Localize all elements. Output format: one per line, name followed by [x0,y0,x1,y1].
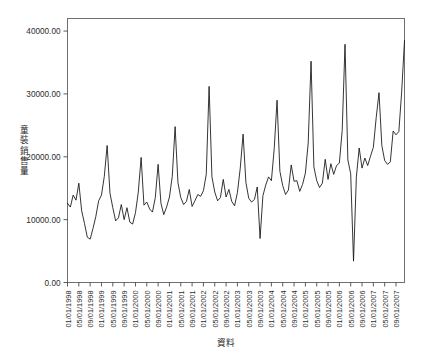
y-axis-title-char: 裝 [20,134,29,145]
chart-container: 0.0010000.0020000.0030000.0040000.00 01/… [0,0,428,358]
y-axis-title: 童裝銷售量 [20,124,29,177]
x-tick-label: 01/01/1998 [64,291,73,328]
x-tick-label: 05/01/2005 [313,291,322,328]
x-tick-label: 01/01/2006 [335,291,344,328]
x-tick-label: 05/01/2006 [347,291,356,328]
x-tick-label: 09/01/1999 [120,291,129,328]
x-tick-label: 09/01/2000 [154,291,163,328]
x-tick-label: 05/01/2003 [245,291,254,328]
x-tick-label: 09/01/2003 [256,291,265,328]
x-tick-label: 01/01/2001 [165,291,174,328]
x-tick-label: 09/01/2005 [324,291,333,328]
x-tick-label: 09/01/2006 [358,291,367,328]
x-tick-label: 05/01/2001 [177,291,186,328]
x-tick-label: 09/01/1998 [86,291,95,328]
x-tick-label: 01/01/2007 [369,291,378,328]
x-tick-label: 09/01/2004 [290,291,299,328]
x-tick-label: 05/01/2004 [279,291,288,328]
x-tick-label: 01/01/2004 [267,291,276,328]
x-tick-label: 09/01/2001 [188,291,197,328]
y-tick-label: 10000.00 [26,216,61,225]
x-tick-label: 09/01/2007 [392,291,401,328]
x-tick-label: 01/01/1999 [97,291,106,328]
x-tick-label: 01/01/2003 [233,291,242,328]
x-tick-label: 05/01/2000 [143,291,152,328]
y-axis-title-char: 童 [20,124,29,135]
y-tick-label: 0.00 [45,279,61,288]
y-axis-title-char: 銷 [20,145,29,156]
x-tick-label: 01/01/2005 [301,291,310,328]
y-tick-label: 20000.00 [26,153,61,162]
x-tick-label: 05/01/2007 [381,291,390,328]
x-tick-label: 09/01/2002 [222,291,231,328]
x-tick-label: 01/01/2000 [131,291,140,328]
y-axis-title-char: 量 [20,166,29,176]
x-tick-label: 05/01/1999 [109,291,118,328]
x-tick-label: 05/01/2002 [211,291,220,328]
y-tick-label: 30000.00 [26,90,61,99]
y-axis-title-char: 售 [20,155,29,166]
y-tick-label: 40000.00 [26,27,61,36]
x-tick-label: 05/01/1998 [75,291,84,328]
x-tick-label: 01/01/2002 [199,291,208,328]
line-chart-svg: 0.0010000.0020000.0030000.0040000.00 01/… [0,0,428,358]
x-axis-title: 資料 [217,337,235,348]
